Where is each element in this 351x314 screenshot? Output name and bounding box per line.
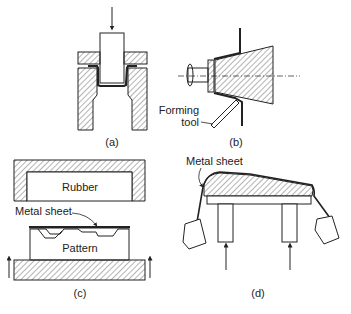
shaft (188, 68, 208, 82)
forming-processes-diagram: (a) Forming tool (b) Rubber Metal sheet (0, 0, 351, 314)
caption-b: (b) (229, 136, 242, 148)
sheet-pointer-d (199, 168, 202, 186)
weight-right (315, 216, 339, 244)
punch (100, 33, 124, 83)
label-rubber: Rubber (62, 181, 98, 193)
die-platen (207, 196, 311, 204)
ram-left (218, 204, 233, 242)
stretch-die (204, 173, 313, 196)
blank-holder-left (78, 52, 100, 64)
metal-sheet-c (29, 226, 130, 229)
panel-c: Rubber Metal sheet Pattern (c) (9, 160, 150, 299)
label-metal-sheet-c: Metal sheet (15, 205, 72, 217)
caption-c: (c) (74, 287, 87, 299)
sheet-pointer (72, 213, 96, 225)
weight-left (183, 219, 206, 249)
panel-a: (a) (78, 7, 147, 148)
metal-sheet-top (214, 28, 240, 59)
tool-leader-line (201, 122, 213, 124)
ram-right (282, 204, 297, 242)
blank-holder-right (124, 52, 147, 64)
caption-d: (d) (251, 287, 264, 299)
panel-d: Metal sheet (d) (183, 155, 339, 299)
label-forming: Forming (159, 104, 199, 116)
label-tool: tool (181, 116, 199, 128)
forming-tool (211, 100, 239, 128)
die-right (128, 68, 147, 130)
press-base (14, 260, 145, 280)
label-metal-sheet-d: Metal sheet (186, 155, 243, 167)
die-left (78, 68, 97, 130)
label-pattern: Pattern (62, 242, 97, 254)
caption-a: (a) (105, 136, 118, 148)
panel-b: Forming tool (b) (159, 28, 300, 148)
